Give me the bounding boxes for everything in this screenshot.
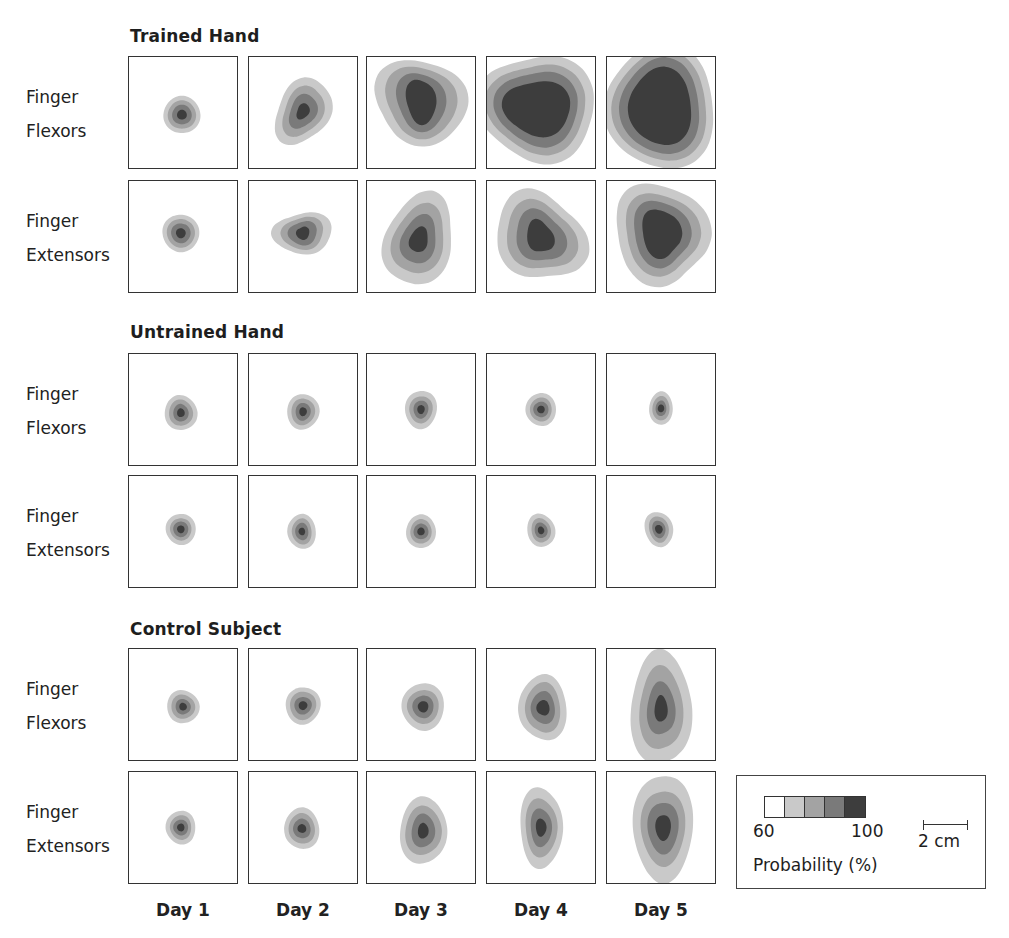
cortical-map-panel: [366, 648, 476, 761]
day-label: Day 3: [366, 900, 476, 920]
row-label-line: Finger: [26, 795, 110, 829]
cortical-map-panel: [606, 56, 716, 169]
contour-map: [487, 649, 595, 760]
cortical-map-panel: [486, 648, 596, 761]
row-label: FingerFlexors: [26, 672, 86, 740]
contour-map: [249, 649, 357, 760]
swatch-level-3: [825, 797, 845, 817]
cortical-map-panel: [248, 771, 358, 884]
contour-map: [367, 476, 475, 587]
contour-map: [249, 772, 357, 883]
contour-map: [367, 181, 475, 292]
contour-map: [487, 772, 595, 883]
scale-bar-label: 2 cm: [918, 831, 960, 851]
contour-map: [487, 181, 595, 292]
swatch-level-2: [805, 797, 825, 817]
contour-map: [607, 649, 715, 760]
legend-min-label: 60: [753, 821, 775, 841]
cortical-map-panel: [486, 353, 596, 466]
contour-map: [367, 772, 475, 883]
contour-map: [249, 476, 357, 587]
row-label-line: Extensors: [26, 533, 110, 567]
contour-map: [249, 57, 357, 168]
row-label-line: Flexors: [26, 706, 86, 740]
contour-map: [129, 476, 237, 587]
cortical-map-panel: [128, 771, 238, 884]
row-label-line: Flexors: [26, 411, 86, 445]
contour-map: [487, 354, 595, 465]
cortical-map-panel: [248, 56, 358, 169]
contour-map: [129, 772, 237, 883]
day-label: Day 2: [248, 900, 358, 920]
cortical-map-panel: [486, 771, 596, 884]
row-label-line: Finger: [26, 672, 86, 706]
contour-map: [607, 772, 715, 883]
contour-map: [487, 57, 595, 168]
cortical-map-panel: [606, 475, 716, 588]
section-title: Control Subject: [130, 619, 281, 639]
contour-map: [129, 649, 237, 760]
contour-map: [367, 354, 475, 465]
row-label-line: Finger: [26, 80, 86, 114]
probability-color-scale: [764, 796, 866, 818]
cortical-map-panel: [248, 353, 358, 466]
cortical-map-panel: [366, 56, 476, 169]
cortical-map-panel: [366, 475, 476, 588]
cortical-map-panel: [248, 180, 358, 293]
section-title: Trained Hand: [130, 26, 260, 46]
cortical-map-panel: [486, 180, 596, 293]
row-label: FingerExtensors: [26, 795, 110, 863]
contour-map: [129, 181, 237, 292]
contour-map: [607, 354, 715, 465]
section-title: Untrained Hand: [130, 322, 284, 342]
cortical-map-panel: [606, 180, 716, 293]
scale-bar: [923, 820, 968, 830]
day-label: Day 1: [128, 900, 238, 920]
cortical-map-panel: [128, 56, 238, 169]
row-label-line: Flexors: [26, 114, 86, 148]
cortical-map-panel: [366, 180, 476, 293]
day-label: Day 4: [486, 900, 596, 920]
row-label-line: Finger: [26, 499, 110, 533]
row-label: FingerFlexors: [26, 80, 86, 148]
swatch-level-1: [785, 797, 805, 817]
legend-title: Probability (%): [753, 855, 878, 875]
cortical-map-panel: [248, 475, 358, 588]
swatch-level-4: [845, 797, 865, 817]
row-label: FingerFlexors: [26, 377, 86, 445]
contour-map: [367, 649, 475, 760]
cortical-map-panel: [486, 56, 596, 169]
contour-map: [367, 57, 475, 168]
cortical-map-panel: [486, 475, 596, 588]
contour-map: [249, 354, 357, 465]
row-label-line: Finger: [26, 377, 86, 411]
cortical-map-panel: [128, 353, 238, 466]
day-label: Day 5: [606, 900, 716, 920]
cortical-map-panel: [128, 475, 238, 588]
legend-max-label: 100: [851, 821, 883, 841]
contour-map: [607, 57, 715, 168]
cortical-map-panel: [366, 771, 476, 884]
cortical-map-panel: [366, 353, 476, 466]
cortical-map-panel: [128, 180, 238, 293]
cortical-map-panel: [128, 648, 238, 761]
row-label: FingerExtensors: [26, 204, 110, 272]
row-label: FingerExtensors: [26, 499, 110, 567]
row-label-line: Extensors: [26, 829, 110, 863]
contour-map: [607, 181, 715, 292]
contour-map: [487, 476, 595, 587]
row-label-line: Finger: [26, 204, 110, 238]
cortical-map-panel: [606, 771, 716, 884]
legend-box: 60 100 Probability (%) 2 cm: [736, 775, 986, 889]
cortical-map-panel: [606, 648, 716, 761]
contour-map: [129, 57, 237, 168]
swatch-level-0: [765, 797, 785, 817]
cortical-map-panel: [248, 648, 358, 761]
cortical-map-panel: [606, 353, 716, 466]
contour-map: [129, 354, 237, 465]
contour-map: [249, 181, 357, 292]
row-label-line: Extensors: [26, 238, 110, 272]
contour-map: [607, 476, 715, 587]
